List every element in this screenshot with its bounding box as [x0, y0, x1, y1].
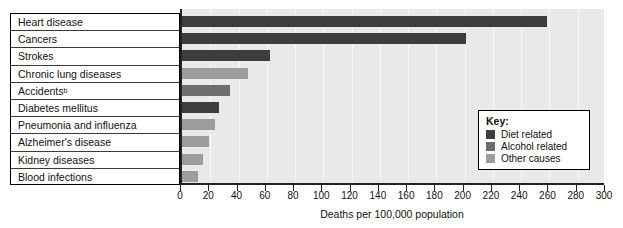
x-tick-label: 120 [341, 190, 358, 201]
legend-item: Alcohol related [486, 141, 583, 152]
bar [182, 102, 219, 113]
bar-row [182, 151, 203, 168]
x-tick-label: 280 [567, 190, 584, 201]
bar-row [182, 82, 230, 99]
legend-title: Key: [486, 115, 583, 127]
x-axis-title: Deaths per 100,000 population [180, 208, 604, 220]
legend-swatch [486, 154, 495, 163]
x-tick-label: 220 [483, 190, 500, 201]
category-label-text: Kidney diseases [18, 154, 94, 166]
category-label-text: Heart disease [18, 16, 83, 28]
category-label-row: Pneumonia and influenza [11, 117, 179, 134]
x-tick-label: 60 [259, 190, 270, 201]
bar-row [182, 30, 466, 47]
gridline [606, 9, 607, 183]
bar-row [182, 116, 215, 133]
category-label-row: Kidney diseases [11, 152, 179, 169]
legend-swatch [486, 130, 495, 139]
bar [182, 119, 215, 130]
x-tick-label: 180 [426, 190, 443, 201]
x-tick-label: 300 [596, 190, 613, 201]
category-label-row: Strokes [11, 48, 179, 65]
category-label-text: Strokes [18, 50, 54, 62]
bar [182, 16, 547, 27]
bar-row [182, 47, 270, 64]
category-label-text: Blood infections [18, 171, 92, 183]
category-label-row: Diabetes mellitus [11, 100, 179, 117]
category-label-row: Blood infections [11, 169, 179, 186]
bar [182, 50, 270, 61]
bar [182, 33, 466, 44]
x-tick-label: 40 [231, 190, 242, 201]
legend-items: Diet relatedAlcohol relatedOther causes [486, 129, 583, 164]
category-label-text: Pneumonia and influenza [18, 119, 137, 131]
bar-row [182, 99, 219, 116]
bar [182, 85, 230, 96]
category-label-text: Alzheimer's disease [18, 136, 111, 148]
bar-row [182, 65, 248, 82]
x-axis-tick-labels: 0204060801001201401601802002202402602803… [0, 190, 623, 204]
category-label-row: Chronic lung diseases [11, 66, 179, 83]
legend-label: Other causes [501, 153, 560, 164]
bar [182, 171, 198, 182]
x-tick-label: 140 [370, 190, 387, 201]
category-label-text: Accidents [18, 85, 64, 97]
x-tick-label: 200 [454, 190, 471, 201]
category-label-row: Cancers [11, 31, 179, 48]
category-label-row: Alzheimer's disease [11, 134, 179, 151]
legend-swatch [486, 142, 495, 151]
x-tick-label: 0 [177, 190, 183, 201]
x-tick-label: 20 [203, 190, 214, 201]
category-label-column: Heart diseaseCancersStrokesChronic lung … [10, 13, 180, 185]
bar-row [182, 13, 547, 30]
legend-label: Diet related [501, 129, 552, 140]
legend-item: Diet related [486, 129, 583, 140]
x-tick-label: 260 [539, 190, 556, 201]
bar-chart: Heart diseaseCancersStrokesChronic lung … [0, 0, 623, 228]
bar-row [182, 133, 209, 150]
legend-item: Other causes [486, 153, 583, 164]
x-tick-label: 240 [511, 190, 528, 201]
category-label-text: Cancers [18, 33, 57, 45]
legend-label: Alcohol related [501, 141, 567, 152]
category-label-row: Accidentsb [11, 83, 179, 100]
x-tick-label: 80 [288, 190, 299, 201]
category-label-text: Diabetes mellitus [18, 102, 98, 114]
bar [182, 68, 248, 79]
x-tick-label: 100 [313, 190, 330, 201]
bar [182, 154, 203, 165]
legend-box: Key: Diet relatedAlcohol relatedOther ca… [478, 110, 590, 170]
category-label-text: Chronic lung diseases [18, 68, 121, 80]
category-footnote-marker: b [64, 87, 68, 94]
bar-row [182, 168, 198, 185]
x-tick-label: 160 [398, 190, 415, 201]
category-label-row: Heart disease [11, 14, 179, 31]
bar [182, 136, 209, 147]
